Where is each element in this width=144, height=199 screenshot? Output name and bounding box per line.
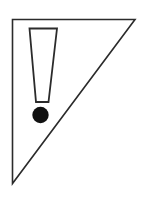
warning-icon: Warning Exclamation Triangle xyxy=(0,0,144,199)
exclamation-dot xyxy=(32,107,48,123)
image-canvas: Warning Exclamation Triangle xyxy=(0,0,144,199)
